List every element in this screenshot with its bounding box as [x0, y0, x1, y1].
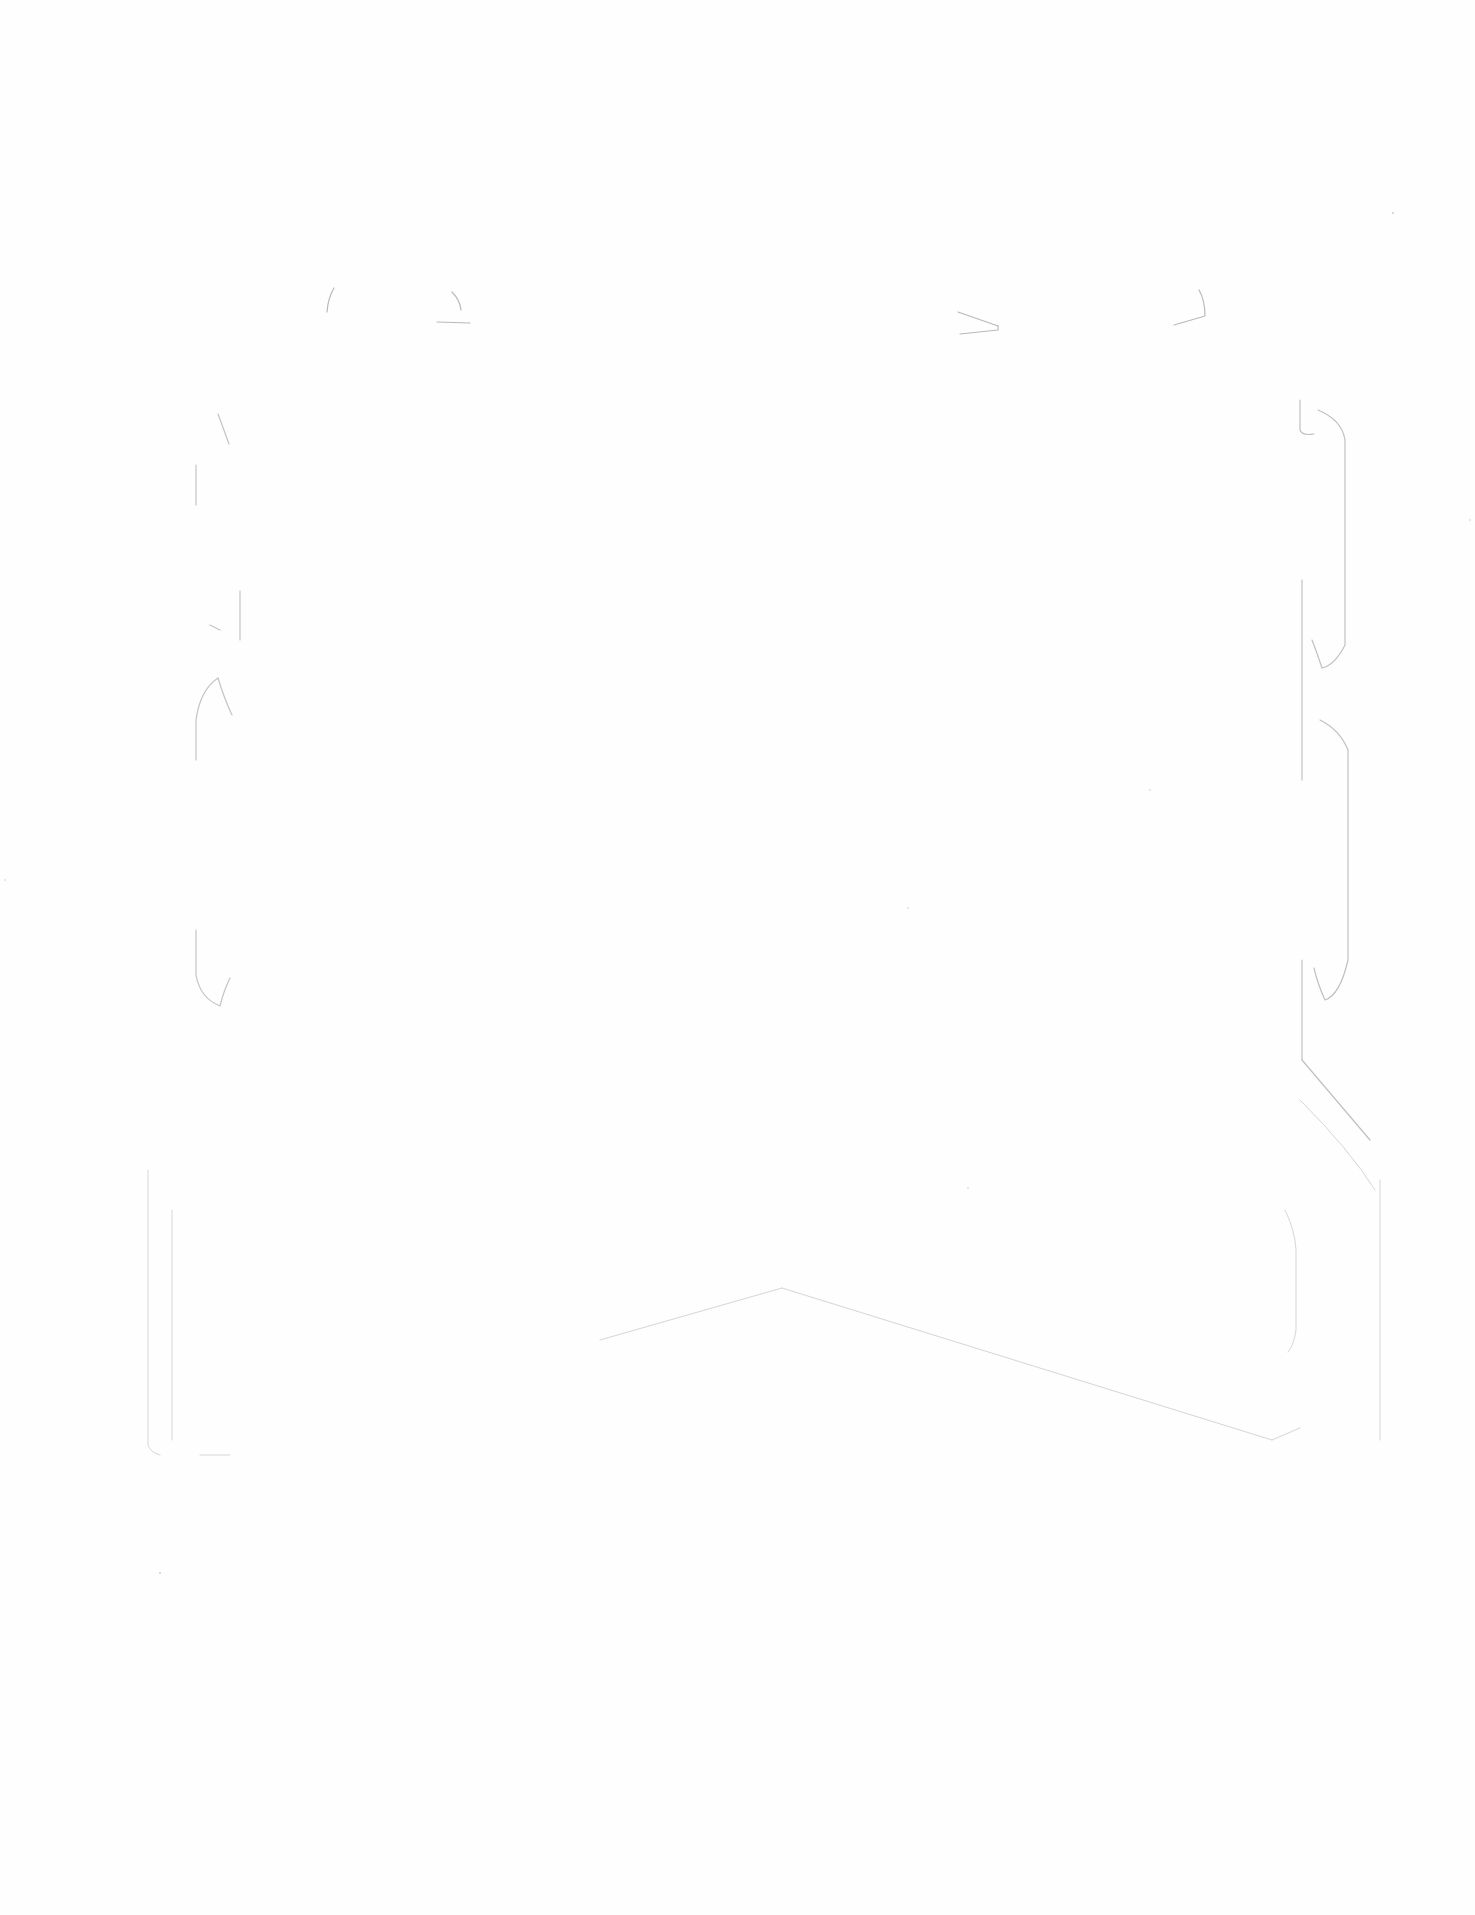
- scanned-blank-page: [0, 0, 1475, 1915]
- left-edge-marks: [196, 414, 240, 1006]
- faint-outline-traces: [0, 0, 1475, 1915]
- banner-outline: [148, 1100, 1380, 1455]
- right-edge-marks: [1300, 400, 1370, 1140]
- scan-specks: [4, 212, 1471, 1574]
- top-tab-marks: [327, 288, 1205, 334]
